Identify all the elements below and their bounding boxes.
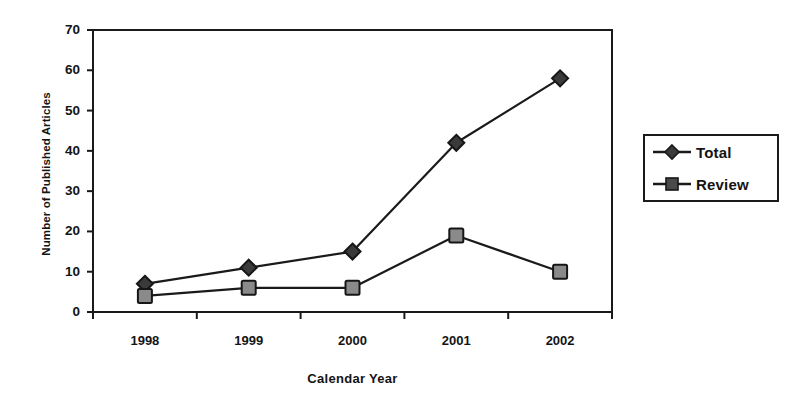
legend-item-1: Review	[651, 171, 749, 197]
data-point-review-1998	[138, 289, 152, 303]
data-point-review-2000	[346, 281, 360, 295]
data-point-review-2001	[449, 228, 463, 242]
chart-legend: Total Review	[643, 134, 779, 202]
x-axis-tick-label: 2000	[313, 333, 393, 348]
legend-label-total: Total	[696, 144, 732, 161]
data-point-total-2002	[552, 70, 568, 86]
diamond-marker-icon	[651, 141, 693, 163]
data-point-total-1999	[241, 260, 257, 276]
x-axis-title: Calendar Year	[93, 371, 612, 386]
x-axis-tick-label: 1998	[105, 333, 185, 348]
data-point-review-2002	[553, 265, 567, 279]
x-axis-tick-label: 2002	[520, 333, 600, 348]
data-point-review-1999	[242, 281, 256, 295]
data-series-layer	[137, 70, 568, 303]
plot-frame	[93, 30, 612, 312]
legend-label-review: Review	[696, 176, 749, 193]
line-chart: Number of Published Articles 01020304050…	[0, 0, 806, 407]
x-axis-ticks	[93, 312, 612, 319]
x-axis-tick-label: 2001	[416, 333, 496, 348]
legend-item-0: Total	[651, 139, 732, 165]
x-axis-tick-label: 1999	[209, 333, 289, 348]
square-marker-icon	[651, 173, 693, 195]
